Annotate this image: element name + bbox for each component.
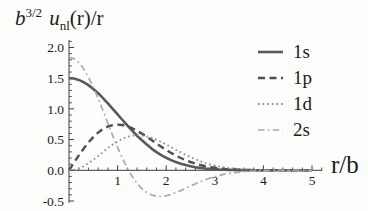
- legend-label-1s: 1s: [293, 41, 310, 63]
- x-tick-label: 3: [211, 173, 218, 188]
- x-tick-label: 2: [163, 173, 170, 188]
- legend-line-sample-1d: [257, 100, 284, 108]
- title-rest: (r)/r: [70, 6, 104, 30]
- y-tick-label: 2.0: [47, 40, 64, 55]
- x-tick-label: 1: [114, 173, 121, 188]
- plot-title: b3/2unl(r)/r: [15, 5, 104, 34]
- x-tick-label: 4: [260, 173, 267, 188]
- title-u: u: [49, 6, 60, 30]
- x-axis-label: r/b: [331, 151, 359, 179]
- legend-item-1d: 1d: [257, 91, 312, 117]
- y-tick-label: 0.5: [47, 132, 64, 147]
- y-tick-label: 1.0: [47, 102, 64, 117]
- x-tick-label: 5: [309, 173, 316, 188]
- legend-line-sample-2s: [257, 126, 284, 134]
- y-tick-label: -0.5: [43, 194, 65, 209]
- y-tick-label: 1.5: [47, 71, 64, 86]
- legend-item-2s: 2s: [257, 117, 312, 143]
- legend-label-1d: 1d: [293, 93, 312, 115]
- title-b-exponent: 3/2: [26, 5, 43, 20]
- legend-label-2s: 2s: [293, 119, 310, 141]
- title-b: b: [15, 6, 26, 30]
- title-u-subscript: nl: [60, 18, 70, 33]
- legend-line-sample-1p: [257, 74, 284, 82]
- legend-item-1p: 1p: [257, 65, 312, 91]
- legend: 1s1p1d2s: [257, 39, 312, 143]
- legend-label-1p: 1p: [293, 67, 312, 89]
- figure: 12345-0.50.00.51.01.52.0 b3/2unl(r)/r r/…: [0, 0, 368, 211]
- legend-item-1s: 1s: [257, 39, 312, 65]
- y-tick-label: 0.0: [47, 163, 64, 178]
- legend-line-sample-1s: [257, 48, 284, 56]
